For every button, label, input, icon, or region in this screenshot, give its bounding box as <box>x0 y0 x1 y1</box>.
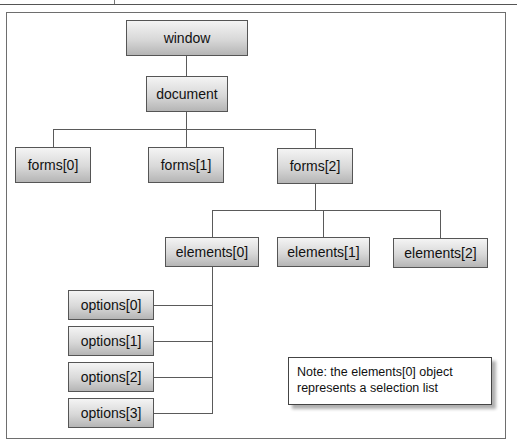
header-tick <box>114 0 115 4</box>
connector-options3 <box>154 413 212 414</box>
node-forms-2: forms[2] <box>277 148 353 184</box>
note-box: Note: the elements[0] object represents … <box>288 357 492 405</box>
connector-options0 <box>154 305 212 306</box>
node-window: window <box>126 20 248 56</box>
node-options-3: options[3] <box>68 398 154 428</box>
connector-elements-bus <box>212 210 441 211</box>
note-line-2: represents a selection list <box>297 380 483 396</box>
node-elements-0: elements[0] <box>165 237 259 267</box>
connector-elements1 <box>323 210 324 237</box>
connector-elements2 <box>440 210 441 238</box>
connector-window-document <box>186 56 187 76</box>
connector-elements0 <box>212 210 213 237</box>
connector-forms2-down <box>315 184 316 210</box>
node-elements-2: elements[2] <box>393 238 488 268</box>
connector-forms2 <box>315 129 316 148</box>
connector-forms0 <box>53 129 54 147</box>
connector-document-down <box>186 112 187 129</box>
connector-options-spine <box>212 267 213 414</box>
connector-forms-bus <box>53 129 316 130</box>
note-line-1: Note: the elements[0] object <box>297 364 483 380</box>
node-forms-0: forms[0] <box>15 147 91 183</box>
node-elements-1: elements[1] <box>277 237 370 267</box>
node-document: document <box>146 76 228 112</box>
header-rule <box>0 4 517 5</box>
node-options-1: options[1] <box>68 326 154 356</box>
node-options-2: options[2] <box>68 362 154 392</box>
connector-forms1 <box>186 129 187 147</box>
node-options-0: options[0] <box>68 290 154 320</box>
connector-options2 <box>154 377 212 378</box>
connector-options1 <box>154 341 212 342</box>
node-forms-1: forms[1] <box>148 147 224 183</box>
